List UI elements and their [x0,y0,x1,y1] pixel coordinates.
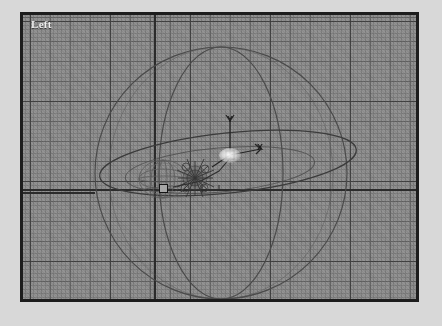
app-root: Y X Left [0,0,442,326]
gizmo-axis-label-x: X [257,143,263,152]
spiky-cluster-object [177,159,214,197]
sphere-meridian-ellipse-secondary [109,47,333,299]
sphere-wireframe-large [95,47,347,299]
selection-box-marker[interactable] [159,184,168,193]
viewport-frame[interactable]: Y X Left [20,12,419,302]
viewport-canvas[interactable]: Y X Left [23,15,416,299]
sphere-meridian-ellipse [159,47,283,299]
orbit-path-ellipse [97,120,360,207]
scene-geometry [23,15,416,299]
viewport-label[interactable]: Left [31,18,52,30]
transform-gizmo[interactable] [212,115,261,167]
gizmo-axis-label-y: Y [227,115,233,124]
